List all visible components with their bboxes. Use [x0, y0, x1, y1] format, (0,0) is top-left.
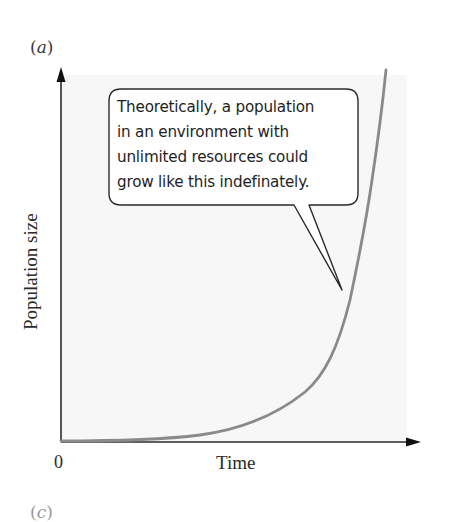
- y-axis-label: Population size: [20, 213, 42, 330]
- x-origin-label: 0: [54, 452, 63, 473]
- callout-line: Theoretically, a population: [117, 95, 358, 120]
- callout-line: unlimited resources could: [117, 145, 358, 170]
- callout-line: in an environment with: [117, 120, 358, 145]
- callout-line: grow like this indefinately.: [117, 170, 358, 195]
- x-axis-arrow-icon: [406, 438, 421, 447]
- callout-text: Theoretically, a population in an enviro…: [109, 89, 358, 205]
- x-axis-label: Time: [216, 452, 255, 474]
- panel-label-c: (c): [30, 502, 53, 522]
- y-axis-arrow-icon: [57, 67, 66, 82]
